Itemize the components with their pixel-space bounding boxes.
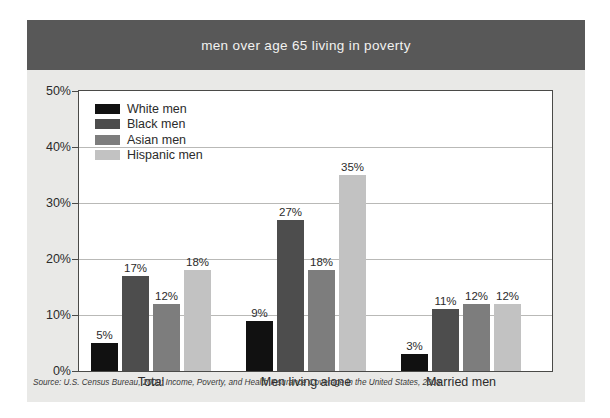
- plot-region: 0%10%20%30%40%50% 5%17%12%18%9%27%18%35%…: [27, 70, 585, 402]
- bar-value-label: 9%: [237, 307, 283, 319]
- page-title: men over age 65 living in poverty: [201, 38, 411, 53]
- bar-value-label: 12%: [144, 290, 190, 302]
- legend-swatch-icon: [95, 150, 120, 160]
- legend-label: Asian men: [127, 133, 186, 147]
- bar[interactable]: 35%: [339, 175, 366, 371]
- y-axis-tick-label: 40%: [27, 140, 71, 154]
- bar-value-label: 18%: [175, 256, 221, 268]
- y-axis-tick-label: 10%: [27, 308, 71, 322]
- bar[interactable]: 9%: [246, 321, 273, 371]
- bar-value-label: 27%: [268, 206, 314, 218]
- legend-label: Hispanic men: [127, 148, 203, 162]
- bar[interactable]: 27%: [277, 220, 304, 371]
- chart-title-band: men over age 65 living in poverty: [27, 20, 585, 70]
- y-axis-tick-label: 50%: [27, 84, 71, 98]
- bar-value-label: 18%: [299, 256, 345, 268]
- bar[interactable]: 18%: [184, 270, 211, 371]
- bar[interactable]: 12%: [494, 304, 521, 371]
- legend-item[interactable]: Asian men: [95, 132, 235, 148]
- legend-swatch-icon: [95, 119, 120, 129]
- bar[interactable]: 18%: [308, 270, 335, 371]
- bar[interactable]: 12%: [463, 304, 490, 371]
- bar[interactable]: 3%: [401, 354, 428, 371]
- legend-swatch-icon: [95, 135, 120, 145]
- source-note: Source: U.S. Census Bureau, 2009; Income…: [33, 378, 443, 387]
- bar-value-label: 17%: [113, 262, 159, 274]
- bar-group: 9%27%18%35%: [246, 91, 366, 371]
- bar[interactable]: 11%: [432, 309, 459, 371]
- bar-value-label: 35%: [330, 161, 376, 173]
- bar-group: 3%11%12%12%: [401, 91, 521, 371]
- y-axis-tick-label: 20%: [27, 252, 71, 266]
- bar-value-label: 5%: [82, 329, 128, 341]
- legend-item[interactable]: Hispanic men: [95, 148, 235, 164]
- legend-item[interactable]: White men: [95, 101, 235, 117]
- bar[interactable]: 12%: [153, 304, 180, 371]
- chart-legend: White menBlack menAsian menHispanic men: [95, 101, 235, 163]
- bar-value-label: 12%: [485, 290, 531, 302]
- figure-card: men over age 65 living in poverty 0%10%2…: [27, 20, 585, 402]
- legend-swatch-icon: [95, 104, 120, 114]
- y-axis-tick-label: 30%: [27, 196, 71, 210]
- bar-value-label: 3%: [392, 340, 438, 352]
- legend-label: White men: [127, 102, 187, 116]
- bar[interactable]: 5%: [91, 343, 118, 371]
- legend-item[interactable]: Black men: [95, 117, 235, 133]
- y-axis-tick-label: 0%: [27, 364, 71, 378]
- legend-label: Black men: [127, 117, 185, 131]
